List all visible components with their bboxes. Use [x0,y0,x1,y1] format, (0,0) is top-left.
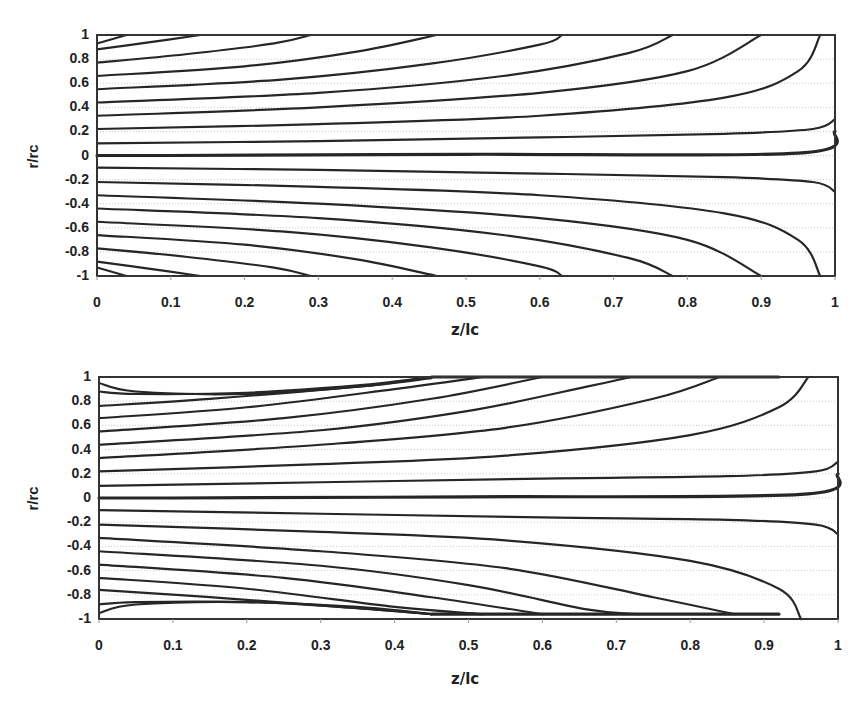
y-tick-label: 0.2 [51,465,91,481]
x-tick-label: 0.3 [301,637,341,653]
y-tick-label: -0.4 [51,537,91,553]
streamline [99,377,631,445]
y-tick-label: 0.4 [51,441,91,457]
x-tick-label: 0.8 [670,637,710,653]
x-tick-label: 1 [818,637,858,653]
streamline [99,377,483,418]
x-tick-label: 0.9 [744,637,784,653]
x-tick-label: 0.4 [375,637,415,653]
chart-panel-bottom: 10.80.60.40.20-0.2-0.4-0.6-0.8-1 00.10.2… [0,0,863,718]
y-tick-label: 0.6 [51,416,91,432]
y-tick-label: 0.8 [51,392,91,408]
y-tick-label: 0 [51,489,91,505]
x-tick-label: 0.1 [153,637,193,653]
x-tick-label: 0 [79,637,119,653]
y-tick-label: -0.8 [51,586,91,602]
streamline [99,474,840,498]
y-tick-label: -0.6 [51,562,91,578]
streamline [99,377,720,458]
x-axis-label-bottom: z/lc [451,670,479,688]
y-tick-label: 1 [51,368,91,384]
x-tick-label: 0.5 [449,637,489,653]
streamline [99,377,542,431]
y-axis-label-bottom: r/rc [24,486,41,510]
y-tick-label: -0.2 [51,513,91,529]
x-tick-label: 0.7 [596,637,636,653]
plot-area-bottom [0,0,863,718]
x-tick-label: 0.6 [522,637,562,653]
y-tick-label: -1 [51,610,91,626]
x-tick-label: 0.2 [227,637,267,653]
